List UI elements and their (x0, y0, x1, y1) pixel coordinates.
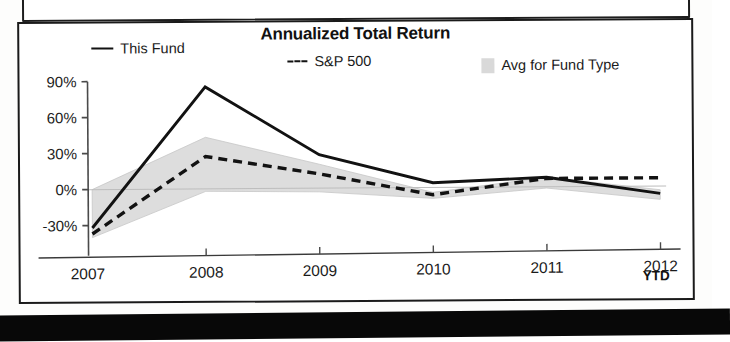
y-axis-tick-labels: 90%60%30%0%-30% (41, 73, 77, 234)
y-axis-tick-label: 60% (47, 109, 77, 126)
x-axis-tick-label: 2008 (189, 264, 224, 281)
y-axis-tick-label: -30% (42, 217, 77, 234)
x-axis-ytd-note: YTD (643, 268, 670, 283)
annualized-total-return-card: Annualized Total Return This Fund S&P 50… (17, 18, 695, 304)
plot-area: 90%60%30%0%-30% 200720082009201020112012 (19, 20, 693, 302)
avg-fund-type-band (92, 135, 661, 238)
y-axis-tick-label: 0% (55, 181, 77, 198)
page-bottom-black-band (0, 308, 730, 341)
x-axis-ticks (206, 242, 660, 255)
x-axis-tick-label: 2009 (303, 262, 338, 279)
x-axis-tick-label: 2007 (71, 265, 106, 282)
x-axis-line (39, 249, 681, 258)
x-axis-tick-labels: 200720082009201020112012 (71, 257, 678, 282)
y-axis-tick-label: 30% (47, 145, 77, 162)
x-axis-tick-label: 2010 (416, 260, 451, 277)
x-axis-tick-label: 2011 (530, 259, 563, 276)
y-axis-tick-label: 90% (46, 73, 76, 90)
chart-inner: Annualized Total Return This Fund S&P 50… (19, 20, 693, 302)
y-axis-line (88, 82, 89, 256)
